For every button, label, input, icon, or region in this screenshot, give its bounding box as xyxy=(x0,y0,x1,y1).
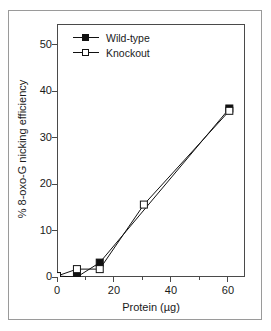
y-axis-title: % 8-oxo-G nicking efficiency xyxy=(16,44,28,254)
data-point-open-square xyxy=(57,273,61,277)
legend-label-knockout: Knockout xyxy=(106,47,150,59)
legend-item-knockout: Knockout xyxy=(73,45,150,60)
y-axis-tick-label: 30 xyxy=(26,132,52,143)
data-point-open-square xyxy=(73,266,80,273)
chart-legend: Wild-type Knockout xyxy=(73,30,150,60)
y-axis-tick-label: 20 xyxy=(26,178,52,189)
x-axis-title: Protein (µg) xyxy=(57,301,245,313)
x-axis-tick xyxy=(113,277,114,282)
open-square-marker-icon xyxy=(73,47,99,58)
x-axis-tick xyxy=(227,277,228,282)
data-point-filled-square xyxy=(96,259,103,266)
data-point-open-square xyxy=(140,201,147,208)
x-axis-tick-label: 40 xyxy=(156,285,186,296)
legend-item-wild-type: Wild-type xyxy=(73,30,150,45)
y-axis-tick-label: 40 xyxy=(26,85,52,96)
series-line-knockout xyxy=(57,111,229,276)
y-axis-tick-label: 10 xyxy=(26,225,52,236)
x-axis-tick-label: 0 xyxy=(42,285,72,296)
figure-container: 01020304050 0204060 Protein (µg) % 8-oxo… xyxy=(0,0,271,331)
plot-data-area xyxy=(57,24,245,277)
data-point-open-square xyxy=(96,266,103,273)
legend-label-wild-type: Wild-type xyxy=(106,32,150,44)
data-point-open-square xyxy=(226,107,233,114)
filled-square-marker-icon xyxy=(73,32,99,43)
series-line-wild-type xyxy=(57,108,229,277)
x-axis-tick xyxy=(170,277,171,282)
x-axis-tick-label: 20 xyxy=(99,285,129,296)
y-axis-tick-label: 0 xyxy=(26,271,52,282)
data-point-filled-square xyxy=(73,274,80,278)
x-axis-tick xyxy=(57,277,58,282)
x-axis-minor-tick xyxy=(199,277,200,280)
x-axis-minor-tick xyxy=(85,277,86,280)
x-axis-minor-tick xyxy=(142,277,143,280)
y-axis-tick-label: 50 xyxy=(26,39,52,50)
x-axis-tick-label: 60 xyxy=(213,285,243,296)
